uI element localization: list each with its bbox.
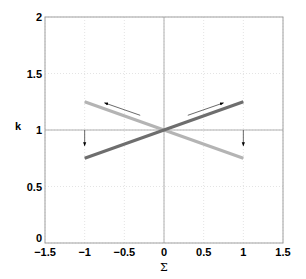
- y-tick-label: 2: [36, 11, 42, 23]
- arrow-annotation: [105, 103, 141, 115]
- x-axis-label: Σ: [160, 261, 168, 274]
- y-tick-label: 1: [36, 124, 42, 136]
- x-tick-label: 0: [161, 246, 167, 258]
- y-tick-label: 1.5: [27, 68, 42, 80]
- x-tick-label: 0.5: [196, 246, 211, 258]
- chart: −1.5−1−0.500.511.5 00.511.52 Σ k: [0, 0, 306, 279]
- x-tick-label: −1: [78, 246, 91, 258]
- y-tick-label: 0.5: [27, 181, 42, 193]
- x-tick-label: 1.5: [275, 246, 290, 258]
- x-tick-label: −1.5: [34, 246, 56, 258]
- y-tick-label: 0: [36, 232, 42, 244]
- x-tick-label: −0.5: [113, 246, 135, 258]
- x-tick-label: 1: [240, 246, 246, 258]
- arrow-annotation: [188, 103, 224, 115]
- y-axis-label: k: [15, 120, 22, 132]
- x-tick-labels: −1.5−1−0.500.511.5: [34, 246, 291, 258]
- y-tick-labels: 00.511.52: [27, 11, 42, 244]
